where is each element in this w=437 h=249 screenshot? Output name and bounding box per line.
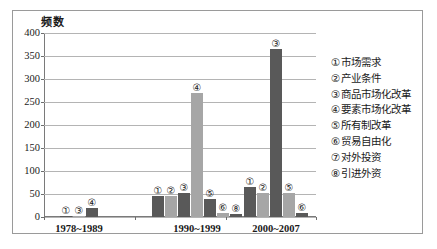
bar-label: ① [62,206,71,216]
x-tick-mark [316,217,317,220]
legend-marker: ⑦ [331,151,340,163]
bar-group: ①②③④⑤⑥⑧1990~1999 [152,33,242,217]
bar[interactable]: ⑥ [296,213,308,217]
legend-marker: ② [331,72,340,84]
legend-label: 贸易自由化 [341,135,391,147]
legend-item: ①市场需求 [331,55,423,71]
legend: ①市场需求②产业条件③商品市场化改革④要素市场化改革⑤所有制改革⑥贸易自由化⑦对… [331,55,423,181]
bar-label: ② [259,183,268,193]
y-axis-title: 频数 [41,13,64,29]
bar-label: ④ [88,198,97,208]
legend-label: 引进外资 [341,167,381,179]
y-tick-label: 150 [24,143,40,154]
legend-marker: ⑥ [331,135,340,147]
y-tick-mark [41,33,44,34]
bar-item[interactable]: ③ [270,33,282,217]
bar[interactable]: ⑥ [217,213,229,217]
bar[interactable]: ③ [73,216,85,217]
bar-item[interactable]: ⑧ [230,33,242,217]
legend-marker: ⑧ [331,167,340,179]
plot-area: 050100150200250300350400 ①③④1978~1989①②③… [44,33,316,217]
chart-region: 频数 050100150200250300350400 ①③④1978~1989… [13,11,323,233]
bar-label: ⑥ [219,203,228,213]
x-axis-category-label: 1978~1989 [55,223,102,234]
legend-label: 所有制改革 [341,119,391,131]
bar-item[interactable]: ① [152,33,164,217]
y-tick-label: 300 [24,74,40,85]
legend-label: 产业条件 [341,72,381,84]
y-tick-mark [41,194,44,195]
bar[interactable]: ① [244,187,256,217]
bar-item[interactable]: ① [60,33,72,217]
legend-item: ⑥贸易自由化 [331,134,423,150]
y-tick-label: 400 [24,28,40,39]
bar-item[interactable]: ① [244,33,256,217]
y-tick-mark [41,56,44,57]
bar-group: ①②③⑤⑥2000~2007 [244,33,308,217]
y-tick-mark [41,125,44,126]
bar-label: ② [167,186,176,196]
x-tick-mark [226,217,227,220]
y-tick-label: 200 [24,120,40,131]
bar-label: ⑧ [232,204,241,214]
bar-item[interactable]: ③ [178,33,190,217]
legend-item: ④要素市场化改革 [331,102,423,118]
bar-label: ③ [75,206,84,216]
figure-frame: 频数 050100150200250300350400 ①③④1978~1989… [12,10,423,234]
y-tick-label: 50 [30,189,41,200]
bar-label: ③ [180,183,189,193]
bar-item[interactable]: ③ [73,33,85,217]
bar-item[interactable]: ⑥ [217,33,229,217]
x-axis-category-label: 2000~2007 [252,223,299,234]
bar[interactable]: ⑤ [204,199,216,217]
bar[interactable]: ④ [191,93,203,217]
legend-label: 对外投资 [341,151,381,163]
legend-label: 市场需求 [341,56,381,68]
bar[interactable]: ④ [86,208,98,217]
bar-label: ⑥ [298,203,307,213]
bar-item[interactable]: ② [165,33,177,217]
bar-label: ③ [272,39,281,49]
y-tick-mark [41,102,44,103]
y-tick-label: 350 [24,51,40,62]
bar[interactable]: ① [60,216,72,217]
y-tick-mark [41,171,44,172]
x-tick-mark [135,217,136,220]
legend-marker: ④ [331,103,340,115]
x-tick-mark [44,217,45,220]
x-axis-category-label: 1990~1999 [173,223,220,234]
legend-item: ⑧引进外资 [331,166,423,182]
bar[interactable]: ③ [178,193,190,217]
bar[interactable]: ⑧ [230,214,242,217]
legend-marker: ③ [331,88,340,100]
bar[interactable]: ② [257,193,269,217]
bar[interactable]: ⑤ [283,193,295,217]
bar-item[interactable]: ④ [191,33,203,217]
legend-marker: ⑤ [331,119,340,131]
legend-marker: ① [331,56,340,68]
y-tick-label: 100 [24,166,40,177]
y-tick-mark [41,79,44,80]
bar-item[interactable]: ④ [86,33,98,217]
legend-label: 商品市场化改革 [341,88,411,100]
bar-item[interactable]: ⑤ [283,33,295,217]
bar-item[interactable]: ⑥ [296,33,308,217]
bar-label: ⑤ [285,183,294,193]
bar[interactable]: ③ [270,49,282,217]
y-tick-label: 250 [24,97,40,108]
gridline [44,217,316,218]
bar-label: ④ [193,83,202,93]
bar-group: ①③④1978~1989 [60,33,98,217]
legend-label: 要素市场化改革 [341,103,411,115]
bar-label: ⑤ [206,189,215,199]
y-tick-mark [41,148,44,149]
bar[interactable]: ② [165,196,177,217]
bar-label: ① [246,177,255,187]
bar-item[interactable]: ⑤ [204,33,216,217]
legend-item: ②产业条件 [331,71,423,87]
legend-item: ③商品市场化改革 [331,87,423,103]
bar-label: ① [154,186,163,196]
legend-item: ⑤所有制改革 [331,118,423,134]
bar[interactable]: ① [152,196,164,217]
bar-item[interactable]: ② [257,33,269,217]
